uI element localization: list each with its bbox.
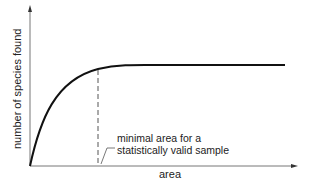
x-axis-arrow-icon — [291, 164, 298, 168]
annotation-line-1: minimal area for a — [117, 132, 229, 144]
y-axis-label: number of species found — [10, 39, 24, 149]
species-area-diagram: number of species found area minimal are… — [0, 0, 312, 189]
x-axis-label: area — [140, 168, 200, 180]
annotation-line-2: statistically valid sample — [117, 144, 229, 156]
minimal-area-annotation: minimal area for a statistically valid s… — [117, 132, 229, 156]
y-axis-arrow-icon — [28, 5, 32, 12]
annotation-leader — [101, 148, 115, 164]
chart-canvas — [0, 0, 312, 189]
